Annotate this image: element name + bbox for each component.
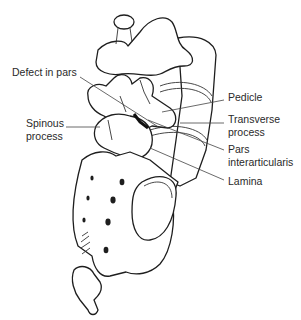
upper-vertebra (96, 18, 193, 75)
label-transverse-process-line1: Transverse (228, 113, 280, 126)
spine-diagram: Defect in pars Spinous process Pedicle T… (0, 0, 301, 320)
coccyx (72, 267, 101, 315)
label-spinous-process-line1: Spinous (26, 117, 64, 130)
label-pars-interarticularis-line2: interarticularis (228, 156, 293, 169)
label-spinous-process-line2: process (26, 130, 63, 143)
label-pedicle: Pedicle (228, 91, 262, 104)
label-lamina: Lamina (228, 175, 262, 188)
label-transverse-process-line2: process (228, 126, 265, 139)
label-defect-in-pars: Defect in pars (12, 66, 77, 79)
label-pars-interarticularis-line1: Pars (228, 143, 250, 156)
upper-facet (114, 15, 134, 29)
